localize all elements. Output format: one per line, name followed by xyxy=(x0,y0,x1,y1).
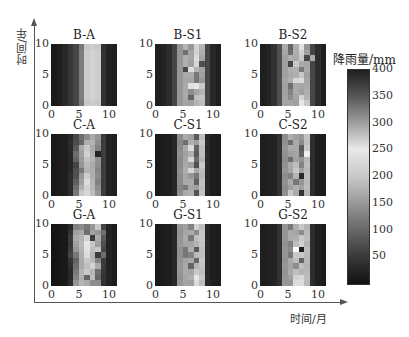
outer-x-axis xyxy=(34,302,342,303)
panel-title: B-S2 xyxy=(258,29,328,41)
y-tick-label: 10 xyxy=(35,218,49,229)
x-tick-label: 5 xyxy=(76,289,83,300)
heatmap-panel xyxy=(260,44,326,106)
x-tick-label: 5 xyxy=(285,289,292,300)
y-tick-label: 5 xyxy=(42,69,49,80)
panel-title: C-A xyxy=(49,119,119,131)
colorbar-tick-label: 150 xyxy=(372,197,393,208)
x-tick-label: 10 xyxy=(102,289,116,300)
heatmap-cell xyxy=(112,280,118,286)
y-tick-label: 10 xyxy=(139,38,153,49)
colorbar-tick-label: 350 xyxy=(372,90,393,101)
panel-title: G-S1 xyxy=(153,209,223,221)
y-tick-label: 10 xyxy=(35,128,49,139)
outer-y-axis-arrow xyxy=(31,18,37,26)
heatmap-panel xyxy=(155,134,221,196)
y-tick-label: 5 xyxy=(42,159,49,170)
y-tick-label: 10 xyxy=(244,218,258,229)
colorbar-tick-label: 300 xyxy=(372,117,393,128)
panel-title: G-S2 xyxy=(258,209,328,221)
outer-y-axis xyxy=(34,24,35,302)
panel-title: B-A xyxy=(49,29,119,41)
x-tick-label: 10 xyxy=(311,289,325,300)
y-tick-label: 5 xyxy=(146,69,153,80)
heatmap-cell xyxy=(321,190,327,196)
y-tick-label: 10 xyxy=(244,128,258,139)
x-tick-label: 0 xyxy=(48,289,55,300)
colorbar-tick-label: 100 xyxy=(372,224,393,235)
y-axis-label: 时间/年 xyxy=(15,28,31,65)
y-tick-label: 10 xyxy=(244,38,258,49)
y-tick-label: 5 xyxy=(251,159,258,170)
x-tick-label: 0 xyxy=(152,289,159,300)
y-tick-label: 5 xyxy=(251,249,258,260)
heatmap-panel xyxy=(155,224,221,286)
heatmap-cell xyxy=(321,280,327,286)
heatmap-panel xyxy=(51,224,117,286)
panel-title: B-S1 xyxy=(153,29,223,41)
colorbar-tick-label: 250 xyxy=(372,143,393,154)
heatmap-cell xyxy=(321,100,327,106)
colorbar-tick-label: 50 xyxy=(372,250,386,261)
heatmap-cell xyxy=(216,280,222,286)
colorbar-tick-label: 400 xyxy=(372,63,393,74)
colorbar-tick-label: 200 xyxy=(372,170,393,181)
x-axis-label: 时间/月 xyxy=(290,310,327,326)
y-tick-label: 5 xyxy=(146,249,153,260)
heatmap-panel xyxy=(155,44,221,106)
heatmap-cell xyxy=(112,100,118,106)
heatmap-cell xyxy=(216,190,222,196)
heatmap-cell xyxy=(216,100,222,106)
y-tick-label: 10 xyxy=(35,38,49,49)
x-tick-label: 0 xyxy=(257,289,264,300)
heatmap-panel xyxy=(51,44,117,106)
outer-x-axis-arrow xyxy=(340,299,348,305)
heatmap-panel xyxy=(51,134,117,196)
x-tick-label: 5 xyxy=(180,289,187,300)
y-tick-label: 10 xyxy=(139,128,153,139)
x-tick-label: 10 xyxy=(206,289,220,300)
y-tick-label: 5 xyxy=(42,249,49,260)
panel-title: C-S2 xyxy=(258,119,328,131)
panel-title: G-A xyxy=(49,209,119,221)
y-tick-label: 5 xyxy=(146,159,153,170)
heatmap-cell xyxy=(112,190,118,196)
heatmap-panel xyxy=(260,224,326,286)
panel-title: C-S1 xyxy=(153,119,223,131)
heatmap-panel xyxy=(260,134,326,196)
y-tick-label: 5 xyxy=(251,69,258,80)
y-tick-label: 10 xyxy=(139,218,153,229)
colorbar xyxy=(347,69,370,285)
